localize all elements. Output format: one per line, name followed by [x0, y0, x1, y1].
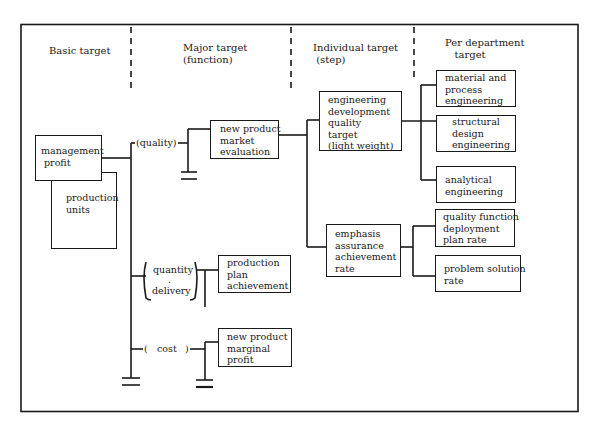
- engineering-development-quality-target-box: engineering development quality target (…: [319, 91, 402, 151]
- material-process-engineering-box: material and process engineering: [436, 70, 516, 107]
- analytical-engineering-box: analytical engineering: [436, 166, 516, 203]
- structural-design-engineering-label: structural design engineering: [452, 116, 510, 151]
- new-product-marginal-profit-label: new product marginal profit: [227, 331, 288, 366]
- new-product-market-evaluation-box: new product market evaluation: [210, 120, 279, 159]
- engineering-development-quality-target-label: engineering development quality target (…: [328, 94, 393, 152]
- column-header-individual: Individual target (step): [313, 42, 398, 66]
- function-quality-label: (quality): [136, 137, 177, 149]
- problem-solution-rate-box: problem solution rate: [435, 255, 521, 292]
- production-plan-achievement-box: production plan achievement: [218, 255, 291, 293]
- column-header-major: Major target (function): [183, 42, 247, 66]
- structural-design-engineering-box: structural design engineering: [436, 115, 516, 152]
- column-header-basic: Basic target: [49, 45, 111, 57]
- management-profit-box: management profit: [35, 135, 102, 181]
- function-cost-open-paren: (: [144, 343, 148, 355]
- production-plan-achievement-label: production plan achievement: [227, 257, 288, 292]
- function-separator-dot: .: [168, 274, 171, 286]
- production-units-box: production units: [51, 172, 117, 249]
- function-cost-label: cost: [157, 343, 177, 355]
- new-product-marginal-profit-box: new product marginal profit: [218, 328, 292, 367]
- column-header-department: Per department target: [445, 37, 525, 61]
- function-delivery-label: delivery: [152, 285, 191, 297]
- new-product-market-evaluation-label: new product market evaluation: [220, 123, 281, 158]
- problem-solution-rate-label: problem solution rate: [444, 263, 526, 286]
- function-cost-close-paren: ): [185, 343, 189, 355]
- function-quantity-label: quantity: [153, 264, 193, 276]
- emphasis-assurance-achievement-rate-box: emphasis assurance achievement rate: [326, 224, 401, 277]
- management-profit-label: management profit: [41, 145, 104, 168]
- production-units-label: production units: [66, 192, 119, 215]
- emphasis-assurance-achievement-rate-label: emphasis assurance achievement rate: [335, 228, 396, 274]
- quality-function-deployment-plan-rate-label: quality function deployment plan rate: [443, 211, 519, 246]
- quality-function-deployment-plan-rate-box: quality function deployment plan rate: [435, 209, 515, 247]
- analytical-engineering-label: analytical engineering: [445, 174, 503, 197]
- material-process-engineering-label: material and process engineering: [445, 72, 506, 107]
